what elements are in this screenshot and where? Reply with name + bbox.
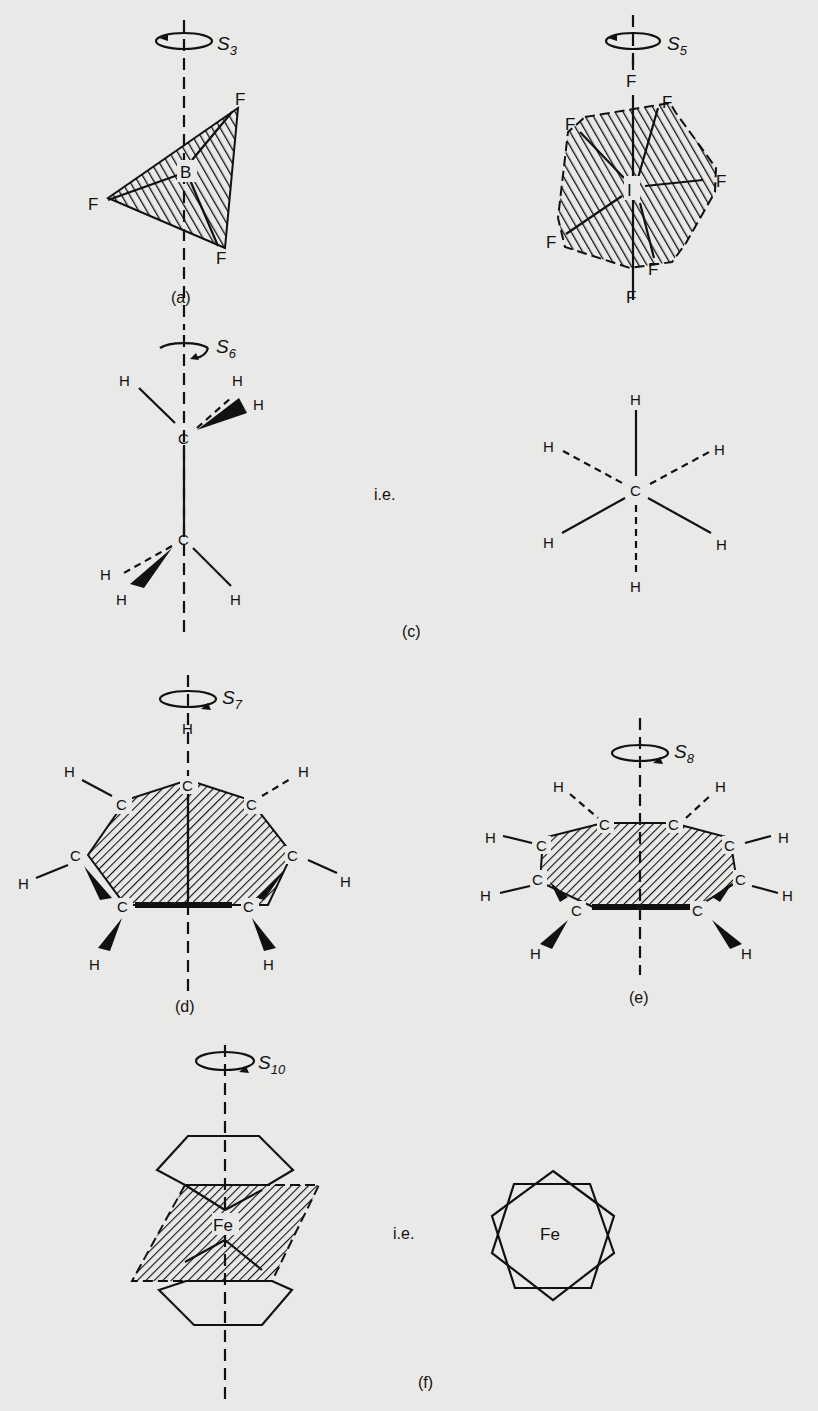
atom-F: F <box>88 195 98 214</box>
atom-B: B <box>180 163 191 182</box>
panel-caption: (d) <box>175 998 195 1015</box>
panel-a: S3 B F F F (a) <box>88 20 245 330</box>
atom-H: H <box>741 945 752 962</box>
atom-F: F <box>662 93 672 112</box>
panel-d: S7 H C C C C C C C H H H H H H (d) <box>18 675 351 1015</box>
atom-H: H <box>530 945 541 962</box>
ring-plane <box>540 823 737 907</box>
atom-H: H <box>100 566 111 583</box>
symmetry-figure: S3 B F F F (a) S5 F I F F <box>0 0 818 1411</box>
atom-H: H <box>630 391 641 408</box>
atom-F: F <box>546 233 556 252</box>
atom-H: H <box>116 591 127 608</box>
atom-F: F <box>626 72 636 91</box>
atom-C: C <box>668 816 679 833</box>
atom-H: H <box>553 778 564 795</box>
atom-C: C <box>70 847 81 864</box>
axis-label: S8 <box>674 741 695 766</box>
axis-label: S6 <box>216 336 237 361</box>
atom-C: C <box>178 531 189 548</box>
atom-Fe: Fe <box>213 1216 233 1235</box>
atom-H: H <box>543 534 554 551</box>
atom-C: C <box>246 796 257 813</box>
atom-H: H <box>298 763 309 780</box>
atom-H: H <box>89 956 100 973</box>
atom-C: C <box>599 816 610 833</box>
atom-H: H <box>263 956 274 973</box>
atom-H: H <box>230 591 241 608</box>
panel-c: S6 C H H H C H H H i.e. C H H H <box>100 335 727 640</box>
atom-H: H <box>716 536 727 553</box>
atom-F: F <box>565 115 575 134</box>
panel-caption: (f) <box>418 1374 433 1391</box>
atom-H: H <box>182 720 193 737</box>
panel-caption: (a) <box>171 289 191 306</box>
ie-label: i.e. <box>374 486 395 503</box>
axis-label: S3 <box>217 33 238 58</box>
axis-label: S7 <box>222 687 243 712</box>
axis-label: S10 <box>258 1052 286 1077</box>
atom-H: H <box>232 372 243 389</box>
atom-H: H <box>480 887 491 904</box>
panel-e: S8 C C C C C C C C H H H H H H H H (e) <box>480 718 793 1006</box>
atom-H: H <box>630 578 641 595</box>
atom-F: F <box>626 288 636 307</box>
panel-b: S5 F I F F F F F F <box>546 15 726 307</box>
panel-caption: (e) <box>629 989 649 1006</box>
atom-C: C <box>243 898 254 915</box>
atom-F: F <box>716 172 726 191</box>
atom-Fe: Fe <box>540 1225 560 1244</box>
atom-C: C <box>178 430 189 447</box>
panel-f: S10 Fe i.e. Fe (f) <box>132 1045 614 1400</box>
atom-H: H <box>64 763 75 780</box>
ferrocene-top-view: Fe <box>492 1171 614 1300</box>
atom-C: C <box>117 898 128 915</box>
atom-C: C <box>571 902 582 919</box>
atom-H: H <box>340 873 351 890</box>
atom-C: C <box>536 837 547 854</box>
atom-H: H <box>119 372 130 389</box>
atom-F: F <box>235 90 245 109</box>
atom-H: H <box>782 887 793 904</box>
atom-C: C <box>287 847 298 864</box>
atom-H: H <box>543 438 554 455</box>
atom-F: F <box>216 249 226 268</box>
atom-C: C <box>182 777 193 794</box>
atom-C: C <box>532 871 543 888</box>
newman-projection: C H H H H H H <box>543 391 727 595</box>
atom-H: H <box>18 875 29 892</box>
ie-label: i.e. <box>393 1225 414 1242</box>
atom-H: H <box>485 829 496 846</box>
atom-H: H <box>715 778 726 795</box>
panel-caption: (c) <box>402 623 421 640</box>
atom-I: I <box>627 181 632 200</box>
atom-C: C <box>724 837 735 854</box>
atom-C: C <box>630 482 641 499</box>
atom-C: C <box>116 796 127 813</box>
atom-C: C <box>692 902 703 919</box>
atom-H: H <box>714 441 725 458</box>
atom-H: H <box>253 396 264 413</box>
atom-C: C <box>735 871 746 888</box>
atom-H: H <box>778 829 789 846</box>
axis-label: S5 <box>667 33 688 58</box>
atom-F: F <box>648 260 658 279</box>
